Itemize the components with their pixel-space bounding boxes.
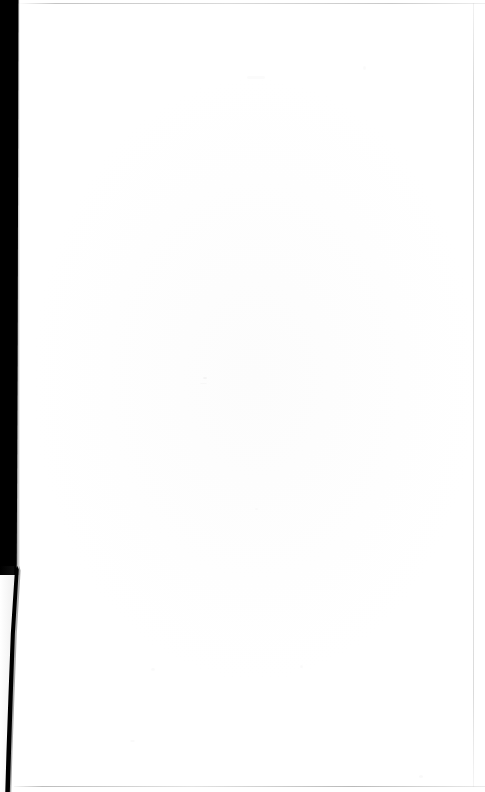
scan-speck (255, 508, 258, 510)
page-right-edge-line (473, 3, 474, 787)
page-content-area (19, 4, 473, 786)
scanned-page (0, 0, 485, 792)
scan-speck (419, 775, 423, 778)
scan-speck (203, 377, 207, 379)
scan-speck (130, 740, 135, 742)
scan-speck (300, 665, 303, 668)
scan-speck (363, 66, 366, 70)
page-top-edge-line (18, 3, 485, 4)
scan-gutter-feather (14, 0, 20, 575)
scan-speck (200, 383, 207, 384)
scan-speck (247, 76, 265, 79)
page-bottom-edge-line (14, 786, 485, 787)
scan-speck (151, 668, 155, 671)
